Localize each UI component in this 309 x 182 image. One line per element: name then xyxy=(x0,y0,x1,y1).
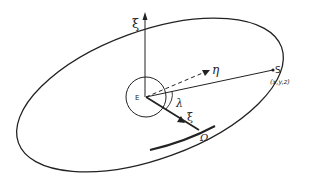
earth-label: E xyxy=(135,94,139,102)
radius-line-to-s xyxy=(146,70,273,97)
zeta-arrow-head xyxy=(143,12,148,20)
point-coords-label: (x,y,z) xyxy=(270,78,290,86)
orbit-diagram: ξ η E S (x,y,z) λ ξ Ω xyxy=(0,0,309,182)
point-s-label: S xyxy=(275,65,281,75)
angle-arc xyxy=(166,91,172,109)
xi-label: ξ xyxy=(187,111,193,124)
zeta-label: ξ xyxy=(132,16,139,31)
eta-arrow-head xyxy=(202,70,210,76)
node-label: Ω xyxy=(199,132,208,143)
orbit-ellipse xyxy=(0,0,303,182)
angle-label: λ xyxy=(175,97,183,110)
eta-axis-line xyxy=(146,72,205,97)
eta-label: η xyxy=(212,63,220,77)
